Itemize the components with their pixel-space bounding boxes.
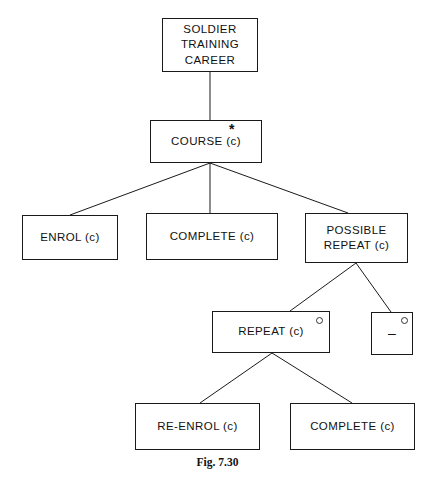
figure-caption: Fig. 7.30 (0, 456, 435, 468)
node-label: – (384, 324, 400, 342)
node-label: SOLDIER TRAINING CAREER (177, 22, 243, 68)
circle-icon (316, 317, 323, 324)
node-course[interactable]: COURSE (c) (150, 120, 262, 163)
node-re-enrol[interactable]: RE-ENROL (c) (135, 403, 260, 450)
asterisk-icon: * (229, 122, 234, 136)
node-complete-first[interactable]: COMPLETE (c) (146, 213, 278, 260)
node-label: REPEAT (c) (234, 324, 308, 339)
node-label: RE-ENROL (c) (153, 419, 241, 434)
node-complete-second[interactable]: COMPLETE (c) (290, 403, 415, 450)
edge-repeat-reenrol (200, 353, 272, 403)
node-soldier-training-career[interactable]: SOLDIER TRAINING CAREER (162, 18, 258, 72)
node-label: POSSIBLE REPEAT (c) (320, 223, 394, 253)
edge-repeat-complete (272, 353, 352, 403)
node-enrol[interactable]: ENROL (c) (22, 215, 118, 260)
structure-chart-diagram: SOLDIER TRAINING CAREER COURSE (c) * ENR… (0, 0, 435, 485)
node-label: COMPLETE (c) (306, 419, 399, 434)
edge-course-enrol (70, 163, 210, 215)
edge-possible-repeat (290, 263, 356, 311)
node-possible-repeat[interactable]: POSSIBLE REPEAT (c) (305, 213, 408, 263)
circle-icon (401, 317, 408, 324)
edge-possible-dash (356, 263, 391, 312)
node-label: ENROL (c) (36, 230, 103, 245)
node-repeat[interactable]: REPEAT (c) (212, 311, 330, 353)
edge-course-possible (210, 163, 348, 213)
node-label: COMPLETE (c) (166, 229, 259, 244)
